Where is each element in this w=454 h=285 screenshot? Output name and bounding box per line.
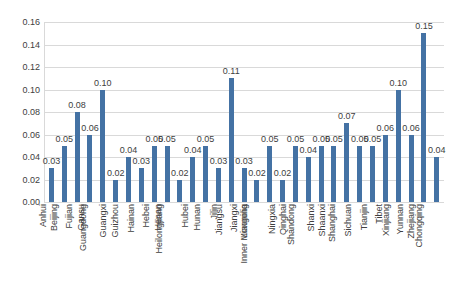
bar-slot: 0.02 bbox=[276, 22, 289, 202]
x-axis-category-labels: AnhuiBeijingFujianGansuGuangdongGuangxiG… bbox=[44, 204, 444, 284]
bar[interactable] bbox=[383, 135, 388, 203]
x-axis-category-label: Fujian bbox=[65, 204, 74, 229]
bar-slot: 0.04 bbox=[186, 22, 199, 202]
x-axis-category-label: Hubei bbox=[181, 204, 190, 228]
x-axis-category-label: Hunan bbox=[192, 204, 201, 231]
bar[interactable] bbox=[421, 33, 426, 202]
x-axis-category-label: Jiangsu bbox=[216, 204, 225, 235]
x-axis-category-label: Guangdong bbox=[79, 204, 88, 251]
bar[interactable] bbox=[62, 146, 67, 202]
bar[interactable] bbox=[434, 157, 439, 202]
x-axis-category-label: Anhui bbox=[40, 204, 49, 227]
bar[interactable] bbox=[319, 146, 324, 202]
bar[interactable] bbox=[49, 168, 54, 202]
bar[interactable] bbox=[331, 146, 336, 202]
bar-slot: 0.06 bbox=[379, 22, 392, 202]
bar[interactable] bbox=[357, 146, 362, 202]
bar[interactable] bbox=[293, 146, 298, 202]
bar-slot: 0.05 bbox=[289, 22, 302, 202]
bar-slot: 0.05 bbox=[199, 22, 212, 202]
y-axis-tick-label: 0.06 bbox=[22, 130, 40, 139]
bar[interactable] bbox=[280, 180, 285, 203]
bar-value-label: 0.04 bbox=[428, 146, 446, 155]
bar[interactable] bbox=[165, 146, 170, 202]
x-axis-category-label: Ningxia bbox=[268, 204, 277, 234]
y-axis-tick-label: 0.02 bbox=[22, 175, 40, 184]
bar[interactable] bbox=[254, 180, 259, 203]
bar-slot: 0.08 bbox=[71, 22, 84, 202]
y-axis-tick-label: 0.14 bbox=[22, 40, 40, 49]
bar[interactable] bbox=[267, 146, 272, 202]
bar-slot: 0.04 bbox=[302, 22, 315, 202]
bar[interactable] bbox=[370, 146, 375, 202]
bar[interactable] bbox=[344, 123, 349, 202]
bar[interactable] bbox=[396, 90, 401, 203]
bar-slot: 0.05 bbox=[366, 22, 379, 202]
bar[interactable] bbox=[100, 90, 105, 203]
x-axis-category-label: Tianjin bbox=[359, 204, 368, 230]
bar[interactable] bbox=[177, 180, 182, 203]
x-axis-category-label: Chongqing bbox=[415, 204, 424, 248]
bar-slot: 0.04 bbox=[122, 22, 135, 202]
y-axis-tick-label: 0.08 bbox=[22, 108, 40, 117]
y-axis-tick-label: 0.12 bbox=[22, 63, 40, 72]
bar-slot: 0.03 bbox=[45, 22, 58, 202]
bar[interactable] bbox=[242, 168, 247, 202]
bar[interactable] bbox=[75, 112, 80, 202]
bar[interactable] bbox=[229, 78, 234, 202]
bar[interactable] bbox=[139, 168, 144, 202]
bar-series: 0.030.050.080.060.100.020.040.030.050.05… bbox=[44, 22, 444, 202]
x-axis-category-label: Shaanxi bbox=[318, 204, 327, 237]
x-axis-label-slot: Liaoning bbox=[251, 204, 264, 284]
bar-slot: 0.11 bbox=[225, 22, 238, 202]
x-axis-category-label: Hebei bbox=[142, 204, 151, 228]
bar-slot: 0.03 bbox=[212, 22, 225, 202]
x-axis-category-label: Jiangxi bbox=[230, 204, 239, 232]
y-axis-tick-label: 0.10 bbox=[22, 85, 40, 94]
bar[interactable] bbox=[190, 157, 195, 202]
bar-slot: 0.05 bbox=[148, 22, 161, 202]
x-axis-category-label: Yunnan bbox=[396, 204, 405, 235]
bar[interactable] bbox=[409, 135, 414, 203]
bar-slot: 0.03 bbox=[135, 22, 148, 202]
y-axis-tick-label: 0.00 bbox=[22, 198, 40, 207]
bar-slot: 0.07 bbox=[340, 22, 353, 202]
bar[interactable] bbox=[306, 157, 311, 202]
x-axis-category-label: Heilongjiang bbox=[155, 204, 164, 254]
bar[interactable] bbox=[87, 135, 92, 203]
x-axis-category-label: Shandong bbox=[288, 204, 297, 245]
x-axis-category-label: Sichuan bbox=[343, 204, 352, 237]
bar-slot: 0.06 bbox=[84, 22, 97, 202]
plot-area: 0.160.140.120.100.080.060.040.020.00 0.0… bbox=[44, 22, 444, 202]
bar-slot: 0.02 bbox=[109, 22, 122, 202]
bar[interactable] bbox=[216, 168, 221, 202]
bar-slot: 0.10 bbox=[392, 22, 405, 202]
x-axis-category-label: Hainan bbox=[127, 204, 136, 233]
y-axis-tick-label: 0.16 bbox=[22, 18, 40, 27]
x-axis-category-label: Xinjiang bbox=[382, 204, 391, 236]
bar-slot: 0.15 bbox=[417, 22, 430, 202]
x-axis-label-slot: Chongqing bbox=[430, 204, 443, 284]
x-axis-category-label: Shanxi bbox=[307, 204, 316, 232]
x-axis-category-label: Inner Mongolia bbox=[240, 204, 249, 264]
y-axis-tick-label: 0.04 bbox=[22, 153, 40, 162]
x-axis-category-label: Beijing bbox=[51, 204, 60, 231]
bar-slot: 0.02 bbox=[251, 22, 264, 202]
x-axis-category-label: Guangxi bbox=[99, 204, 108, 238]
bar[interactable] bbox=[152, 146, 157, 202]
x-axis-category-label: Guizhou bbox=[112, 204, 121, 238]
bar-slot: 0.06 bbox=[405, 22, 418, 202]
bar-slot: 0.04 bbox=[430, 22, 443, 202]
bar[interactable] bbox=[203, 146, 208, 202]
bar-slot: 0.05 bbox=[315, 22, 328, 202]
bar[interactable] bbox=[113, 180, 118, 203]
bar-chart: 0.160.140.120.100.080.060.040.020.00 0.0… bbox=[0, 0, 454, 285]
bar[interactable] bbox=[126, 157, 131, 202]
bar-slot: 0.05 bbox=[353, 22, 366, 202]
x-axis-category-label: Shanghai bbox=[328, 204, 337, 242]
bar-slot: 0.02 bbox=[173, 22, 186, 202]
bar-slot: 0.05 bbox=[58, 22, 71, 202]
